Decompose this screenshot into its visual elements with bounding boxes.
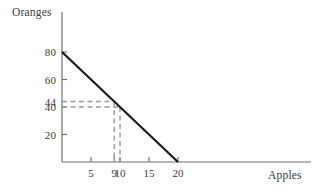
y-axis-tick-label: 20 xyxy=(30,129,56,141)
x-axis-ticks xyxy=(91,157,178,162)
x-axis-tick-label: 20 xyxy=(172,167,183,179)
x-axis-tick-label: 10 xyxy=(114,167,125,179)
chart-figure: Oranges Apples 8060444020 59101520 xyxy=(0,0,317,192)
y-axis-ticks xyxy=(62,52,67,135)
x-axis-title: Apples xyxy=(268,169,302,181)
y-axis-tick-label: 40 xyxy=(30,101,56,113)
x-axis-tick-label: 15 xyxy=(143,167,154,179)
guide-lines-group xyxy=(62,102,120,163)
y-axis-tick-label: 80 xyxy=(30,46,56,58)
x-axis-tick-label: 5 xyxy=(88,167,94,179)
y-axis-tick-label: 60 xyxy=(30,74,56,86)
y-axis-title: Oranges xyxy=(12,6,52,18)
